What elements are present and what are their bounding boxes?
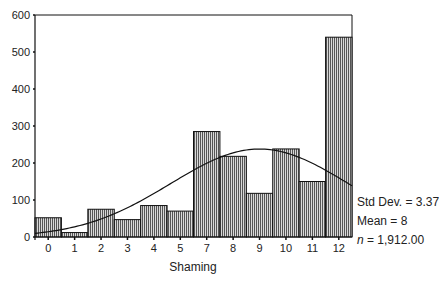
x-tick-label: 9 [256,242,262,254]
bar-8 [220,156,246,237]
y-tick-label: 400 [12,83,30,95]
bars [35,37,352,237]
x-axis: 012345789101112 [35,237,352,254]
y-tick-label: 600 [12,9,30,21]
bar-4 [141,206,167,237]
x-tick-label: 3 [124,242,130,254]
x-tick-label: 2 [98,242,104,254]
x-tick-label: 11 [307,242,318,254]
x-tick-label: 10 [280,242,292,254]
n-label: n = 1,912.00 [357,231,439,250]
x-tick-label: 7 [204,242,210,254]
n-value: = 1,912.00 [364,233,424,247]
x-tick-label: 12 [333,242,345,254]
y-tick-label: 300 [12,120,30,132]
bar-11 [299,182,325,238]
y-tick-label: 100 [12,194,30,206]
n-symbol: n [357,233,364,247]
x-axis-title: Shaming [169,260,216,274]
x-tick-label: 8 [230,242,236,254]
x-tick-label: 4 [151,242,157,254]
std-dev-label: Std Dev. = 3.37 [357,193,439,212]
y-axis: 0100200300400500600 [12,9,35,243]
bar-5 [167,211,193,237]
bar-0 [35,218,61,237]
bar-12 [326,37,352,237]
x-tick-label: 0 [45,242,51,254]
bar-3 [114,220,140,237]
y-tick-label: 500 [12,46,30,58]
bar-9 [246,193,272,237]
y-tick-label: 200 [12,157,30,169]
y-tick-label: 0 [24,231,30,243]
stats-box: Std Dev. = 3.37 Mean = 8 n = 1,912.00 [357,193,439,250]
x-tick-label: 1 [72,242,78,254]
x-tick-label: 5 [177,242,183,254]
bar-7 [194,132,220,237]
bar-2 [88,209,114,237]
mean-label: Mean = 8 [357,212,439,231]
bar-1 [61,233,87,237]
bar-10 [273,149,299,237]
